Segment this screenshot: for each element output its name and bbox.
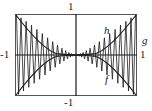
x-axis-tick-label-right: 1 <box>140 49 146 60</box>
curve-label-f: f <box>105 74 108 85</box>
y-axis-tick-label-bottom: -1 <box>64 97 73 108</box>
plot-canvas <box>0 0 152 111</box>
x-axis-tick-label-left: -1 <box>0 49 9 60</box>
squeeze-theorem-plot: 1 -1 -1 1 h g f <box>0 0 152 111</box>
curve-label-h: h <box>104 25 110 36</box>
y-axis-tick-label-top: 1 <box>68 1 74 12</box>
curve-label-g: g <box>142 35 148 46</box>
